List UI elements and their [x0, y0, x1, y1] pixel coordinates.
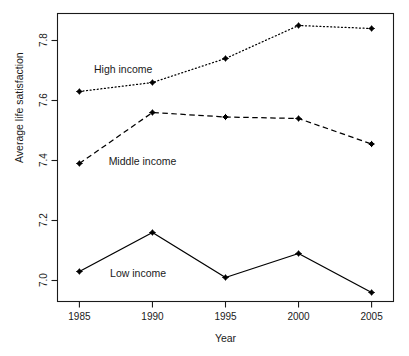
data-point-marker: [222, 114, 228, 120]
series-label-middle-income: Middle income: [109, 156, 177, 167]
y-tick-label: 7.6: [39, 94, 49, 108]
data-point-marker: [222, 274, 228, 280]
data-point-marker: [149, 79, 155, 85]
data-point-marker: [76, 268, 82, 274]
x-axis-ticks: [79, 302, 371, 308]
chart-figure: 19851990199520002005 7.07.27.47.67.8 Hig…: [0, 0, 409, 356]
plot-canvas: [0, 0, 409, 356]
x-tick-label: 2000: [287, 312, 309, 322]
y-axis-title: Average life satisfaction: [14, 52, 25, 163]
x-tick-label: 1990: [141, 312, 163, 322]
x-tick-label: 1995: [214, 312, 236, 322]
data-point-marker: [222, 55, 228, 61]
data-point-marker: [368, 141, 374, 147]
data-point-marker: [295, 115, 301, 121]
y-tick-label: 7.8: [39, 34, 49, 48]
x-axis-title: Year: [215, 333, 236, 344]
data-point-marker: [295, 250, 301, 256]
data-point-marker: [368, 25, 374, 31]
x-tick-label: 2005: [360, 312, 382, 322]
data-point-marker: [76, 88, 82, 94]
series-label-high-income: High income: [94, 64, 152, 75]
y-axis-ticks: [52, 41, 58, 281]
x-tick-label: 1985: [68, 312, 90, 322]
y-tick-label: 7.4: [39, 154, 49, 168]
y-tick-label: 7.2: [39, 214, 49, 228]
y-tick-label: 7.0: [39, 274, 49, 288]
series-label-low-income: Low income: [110, 268, 166, 279]
data-point-marker: [295, 22, 301, 28]
series-line-low-income: [79, 233, 371, 293]
data-point-marker: [368, 289, 374, 295]
data-point-marker: [149, 229, 155, 235]
